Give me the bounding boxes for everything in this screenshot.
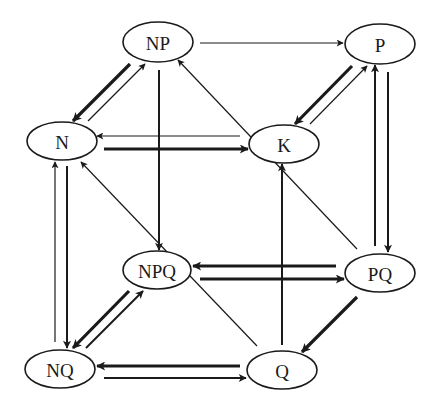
edge-npq-to-nq-arrow-icon <box>73 291 129 348</box>
node-label: P <box>375 35 386 56</box>
edge-np-to-n-arrow-icon <box>73 64 130 121</box>
node-npq: NPQ <box>123 251 191 289</box>
edge-nq-to-npq-arrow-icon <box>86 291 143 348</box>
node-q: Q <box>247 351 317 389</box>
node-label: Q <box>275 361 289 382</box>
node-n: N <box>27 122 97 160</box>
node-np: NP <box>123 22 193 62</box>
edge-p-to-k-arrow-icon <box>295 66 352 124</box>
node-label: NPQ <box>138 261 176 282</box>
node-k: K <box>249 125 319 163</box>
node-label: PQ <box>368 264 393 285</box>
node-label: N <box>55 132 69 153</box>
edge-k-to-p-arrow-icon <box>310 66 367 124</box>
node-p: P <box>345 24 415 64</box>
node-label: K <box>277 135 291 156</box>
node-nq: NQ <box>25 350 95 388</box>
node-pq: PQ <box>345 254 415 292</box>
edges-layer <box>55 43 388 378</box>
cube-state-diagram: NPPNKNPQPQNQQ <box>0 0 441 415</box>
node-label: NQ <box>46 360 74 381</box>
edge-pq-to-q-arrow-icon <box>302 297 357 352</box>
node-label: NP <box>146 33 170 54</box>
edge-n-to-np-arrow-icon <box>88 64 145 121</box>
